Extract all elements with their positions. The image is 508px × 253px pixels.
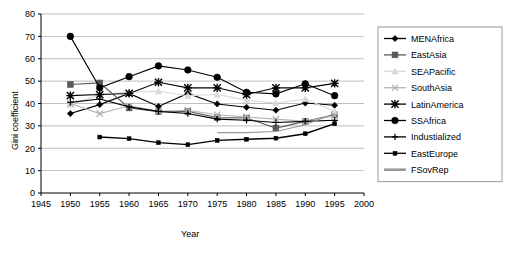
legend-label: SSAfrica [411,116,446,126]
data-point-plus [273,119,279,125]
y-axis-tick-label: 50 [25,76,35,86]
data-point-small-square [186,143,190,147]
y-axis-tick-label: 0 [30,188,35,198]
data-point-star [391,100,399,108]
data-point-small-square [333,122,337,126]
legend-label: EastEurope [411,149,458,159]
data-point-diamond [214,101,220,107]
data-point-circle [273,91,280,98]
y-axis-tick-label: 70 [25,32,35,42]
data-point-small-square [274,136,278,140]
legend-label: FSovRep [411,165,449,175]
data-point-small-square [98,135,102,139]
data-point-circle [302,81,309,88]
data-point-small-square [245,137,249,141]
x-axis-title: Year [181,229,199,239]
data-point-circle [185,67,192,74]
series-southasia [67,100,337,124]
y-axis-tick-label: 80 [25,9,35,19]
y-axis-tick-label: 40 [25,99,35,109]
y-axis-tick-label: 20 [25,144,35,154]
legend: MENAfricaEastAsiaSEAPacificSouthAsiaLati… [378,27,502,182]
x-axis-tick-label: 1950 [60,199,80,209]
plot-svg: 0102030405060708019451950195519601965197… [0,0,508,253]
legend-label: Industialized [411,132,461,142]
data-point-small-square [157,141,161,145]
data-point-small-square [215,139,219,143]
x-axis-tick-label: 1955 [90,199,110,209]
data-point-circle [155,63,162,70]
data-point-star [213,84,221,92]
x-axis-tick-label: 1975 [207,199,227,209]
data-point-small-square [127,137,131,141]
legend-label: MENAfrica [411,34,454,44]
series-line [70,36,334,95]
data-point-circle [243,89,250,96]
data-point-small-square [393,151,397,155]
x-axis-tick-label: 1970 [178,199,198,209]
data-point-star [330,79,338,87]
legend-label: SEAPacific [411,67,456,77]
data-point-small-square [303,132,307,136]
y-axis-tick-label: 10 [25,166,35,176]
legend-label: EastAsia [411,50,447,60]
data-point-diamond [97,102,103,108]
data-point-diamond [273,107,279,113]
x-axis-tick-label: 1990 [295,199,315,209]
data-point-square [273,125,279,131]
x-axis-tick-label: 1965 [148,199,168,209]
series-line [70,104,334,122]
x-axis-tick-label: 1960 [119,199,139,209]
data-point-cross [97,110,103,116]
x-axis-tick-label: 1980 [237,199,257,209]
chart-container: Gini coefficient Year 010203040506070801… [0,0,508,253]
y-axis-tick-label: 60 [25,54,35,64]
legend-label: SouthAsia [411,83,452,93]
data-point-diamond [67,110,73,116]
data-point-star [154,78,162,86]
x-axis-tick-label: 1985 [266,199,286,209]
data-point-diamond [243,104,249,110]
data-point-star [66,92,74,100]
legend-label: LatinAmerica [411,100,464,110]
data-point-star [184,84,192,92]
x-axis-tick-label: 2000 [354,199,374,209]
data-point-circle [392,117,399,124]
y-axis-tick-label: 30 [25,121,35,131]
x-axis-tick-label: 1995 [325,199,345,209]
data-point-square [392,52,398,58]
data-point-circle [214,74,221,81]
data-point-circle [67,33,74,40]
x-axis-tick-label: 1945 [31,199,51,209]
data-point-star [125,89,133,97]
data-point-circle [126,73,133,80]
data-point-diamond [332,102,338,108]
data-point-circle [331,92,338,99]
data-point-circle [96,85,103,92]
data-point-square [67,82,73,88]
y-axis-title: Gini coefficient [10,91,20,150]
